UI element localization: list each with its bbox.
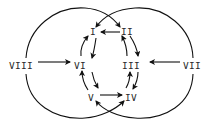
edge-VI-to-I xyxy=(81,36,88,56)
node-V: V xyxy=(88,92,94,103)
edge-III-to-II xyxy=(122,36,127,56)
left-circle-top-arc xyxy=(26,8,120,58)
node-VII: VII xyxy=(183,60,201,71)
state-transition-diagram: I II III IV V VI VII VIII xyxy=(0,0,215,126)
edge-V-to-VI xyxy=(82,71,88,90)
edge-VI-to-V xyxy=(92,72,98,88)
right-circle-bottom-arc xyxy=(96,74,193,118)
node-I: I xyxy=(90,26,96,37)
node-IV: IV xyxy=(125,92,137,103)
right-circle-top-arc xyxy=(96,8,193,58)
node-VIII: VIII xyxy=(9,60,33,71)
node-II: II xyxy=(121,26,133,37)
edge-II-to-III xyxy=(130,36,138,56)
node-III: III xyxy=(122,60,140,71)
edge-III-to-IV xyxy=(133,72,138,89)
node-VI: VI xyxy=(74,60,86,71)
edge-IV-to-III xyxy=(126,72,130,88)
edge-I-to-VI xyxy=(92,38,96,58)
